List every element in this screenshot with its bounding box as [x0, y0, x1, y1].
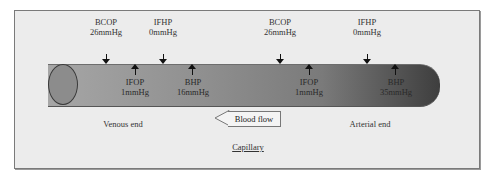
venous-bcop-label: BCOP 26mmHg [76, 17, 136, 37]
venous-bcop-value: 26mmHg [76, 27, 136, 37]
arterial-bcop-name: BCOP [250, 17, 310, 27]
venous-ifop-name: IFOP [105, 77, 165, 87]
arterial-bhp-name: BHP [366, 77, 426, 87]
arterial-bhp-value: 35mmHg [366, 87, 426, 97]
venous-ifhp-label: IFHP 0mmHg [133, 17, 193, 37]
venous-ifhp-value: 0mmHg [133, 27, 193, 37]
capillary-caption: Capillary [218, 142, 278, 152]
blood-flow-label: Blood flow [228, 111, 281, 127]
venous-bhp-value: 16mmHg [163, 87, 223, 97]
venous-end-label: Venous end [83, 119, 163, 129]
venous-bhp-label: BHP 16mmHg [163, 77, 223, 97]
arterial-bhp-arrow-up-icon [391, 64, 399, 75]
arterial-bcop-label: BCOP 26mmHg [250, 17, 310, 37]
venous-bhp-name: BHP [163, 77, 223, 87]
arterial-ifop-label: IFOP 1mmHg [279, 77, 339, 97]
venous-bcop-name: BCOP [76, 17, 136, 27]
arterial-ifop-arrow-up-icon [305, 64, 313, 75]
arterial-ifop-name: IFOP [279, 77, 339, 87]
arterial-ifhp-name: IFHP [337, 17, 397, 27]
venous-ifhp-arrow-down-icon [159, 54, 167, 64]
arterial-bhp-label: BHP 35mmHg [366, 77, 426, 97]
venous-ifop-label: IFOP 1mmHg [105, 77, 165, 97]
venous-ifhp-name: IFHP [133, 17, 193, 27]
arterial-bcop-value: 26mmHg [250, 27, 310, 37]
arterial-bcop-arrow-down-icon [276, 54, 284, 64]
capillary-tube-opening [48, 64, 78, 105]
venous-bcop-arrow-down-icon [102, 54, 110, 64]
arterial-ifhp-label: IFHP 0mmHg [337, 17, 397, 37]
arterial-ifhp-value: 0mmHg [337, 27, 397, 37]
arterial-ifhp-arrow-down-icon [363, 54, 371, 64]
venous-ifop-arrow-up-icon [131, 64, 139, 75]
venous-bhp-arrow-up-icon [188, 64, 196, 75]
arterial-ifop-value: 1mmHg [279, 87, 339, 97]
venous-ifop-value: 1mmHg [105, 87, 165, 97]
arterial-end-label: Arterial end [330, 119, 410, 129]
